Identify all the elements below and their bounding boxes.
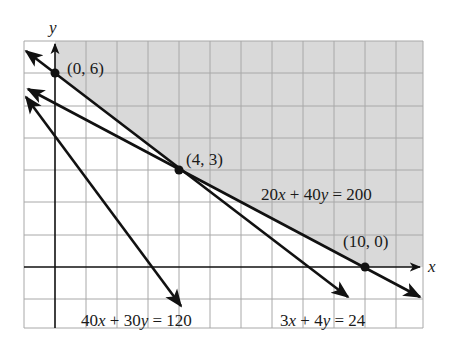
point-4-3 (175, 166, 184, 175)
equation-label-20x-40y-200: 20x + 40y = 200 (261, 185, 372, 204)
equation-label-3x-4y-24: 3x + 4y = 24 (280, 311, 366, 330)
graph: y x (0, 6) (4, 3) (10, 0) 20x + 40y = 20… (0, 0, 453, 353)
point-label-0-6: (0, 6) (67, 59, 104, 78)
point-label-10-0: (10, 0) (343, 232, 388, 251)
y-axis-label: y (47, 18, 57, 37)
point-10-0 (361, 263, 370, 272)
point-0-6 (51, 69, 60, 78)
x-axis-label: x (427, 257, 436, 276)
point-label-4-3: (4, 3) (186, 150, 223, 169)
equation-label-40x-30y-120: 40x + 30y = 120 (81, 311, 192, 330)
